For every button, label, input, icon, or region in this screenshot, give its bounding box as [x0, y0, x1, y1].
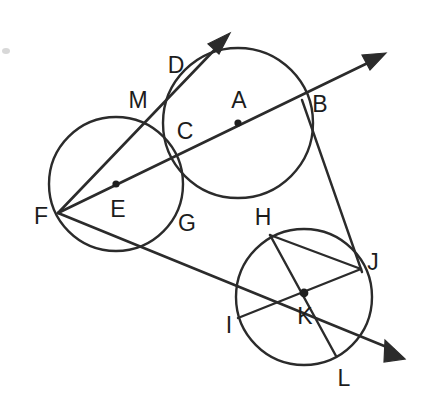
- point-label-k: K: [297, 305, 312, 328]
- center-dot-k: [300, 289, 309, 298]
- point-label-f: F: [34, 205, 48, 228]
- segment-b-j: [302, 100, 362, 272]
- center-dot-a: [234, 119, 241, 126]
- point-label-d: D: [168, 54, 185, 77]
- arrowhead-b-ray: [362, 53, 386, 70]
- point-label-c: C: [177, 120, 194, 143]
- center-dot-e: [112, 180, 119, 187]
- scan-speck: [2, 48, 10, 54]
- point-label-b: B: [312, 93, 327, 116]
- point-label-l: L: [338, 367, 351, 390]
- point-label-e: E: [110, 198, 125, 221]
- arrowhead-d-ray: [208, 33, 230, 54]
- point-label-j: J: [367, 251, 379, 274]
- geometry-figure: D A B M C F E G H J I K L: [0, 0, 425, 404]
- geometry-canvas: [0, 0, 425, 404]
- point-label-h: H: [255, 206, 272, 229]
- point-label-a: A: [231, 89, 246, 112]
- arrowhead-lower-right-ray: [384, 340, 405, 362]
- point-label-g: G: [178, 212, 196, 235]
- ray-f-through-b: [58, 59, 376, 213]
- point-label-i: I: [226, 314, 232, 337]
- point-label-m: M: [128, 89, 147, 112]
- segment-h-j: [270, 235, 361, 269]
